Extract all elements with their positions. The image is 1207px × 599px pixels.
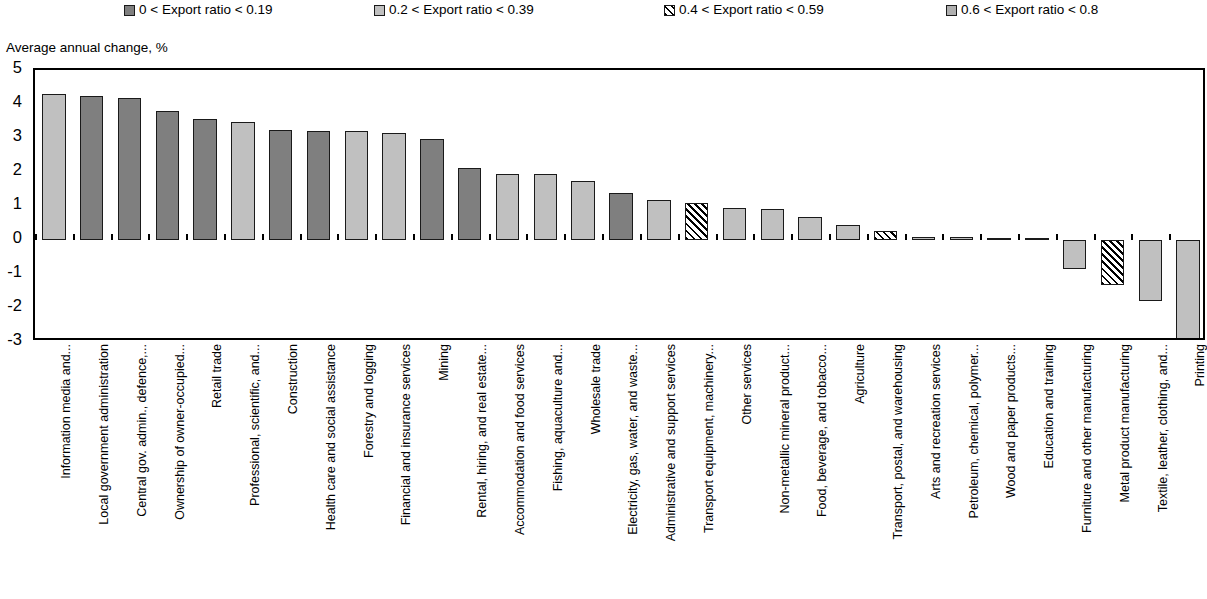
bar [80, 96, 103, 241]
x-axis-category-label: Wholesale trade [590, 344, 603, 434]
bar [193, 119, 216, 240]
legend-label: 0 < Export ratio < 0.19 [139, 3, 273, 17]
x-axis-tick-mark [300, 234, 302, 240]
y-axis-tick-label: -3 [0, 331, 22, 347]
x-axis-category-label: Wood and paper products... [1005, 344, 1018, 498]
y-axis-tick-label: 2 [0, 161, 22, 177]
x-axis-tick-mark [337, 234, 339, 240]
bar [798, 217, 821, 240]
x-axis-tick-mark [35, 234, 37, 240]
y-axis-tick-label: 3 [0, 127, 22, 143]
bars-container [35, 70, 1203, 338]
x-axis-tick-mark [753, 234, 755, 240]
bar [534, 174, 557, 240]
legend-label: 0.2 < Export ratio < 0.39 [389, 3, 534, 17]
bar [950, 237, 973, 240]
bar [307, 131, 330, 240]
y-axis-tick-label: -2 [0, 297, 22, 313]
x-axis-category-label: Furniture and other manufacturing [1081, 344, 1094, 533]
x-axis-category-label: Information media and... [60, 344, 73, 479]
y-axis-title: Average annual change, % [6, 40, 168, 55]
bar [118, 98, 141, 240]
legend-item-2[interactable]: 0.2 < Export ratio < 0.39 [374, 3, 534, 17]
chart-legend: 0 < Export ratio < 0.190.2 < Export rati… [0, 0, 1206, 26]
y-axis-tick-label: 1 [0, 195, 22, 211]
x-axis-tick-mark [526, 234, 528, 240]
x-axis-category-label: Transport, postal, and warehousing [892, 344, 905, 539]
legend-swatch-icon [374, 5, 385, 16]
legend-item-3[interactable]: 0.4 < Export ratio < 0.59 [664, 3, 824, 17]
legend-swatch-icon [946, 5, 957, 16]
bar [571, 181, 594, 240]
bar [1063, 240, 1086, 269]
plot-area [33, 68, 1205, 340]
bar [685, 203, 708, 240]
legend-swatch-icon [124, 5, 135, 16]
x-axis-category-label: Food, beverage, and tobacco... [816, 344, 829, 517]
x-axis-tick-mark [1131, 234, 1133, 240]
x-axis-category-label: Construction [287, 344, 300, 414]
x-axis-tick-mark [829, 234, 831, 240]
legend-item-1[interactable]: 0 < Export ratio < 0.19 [124, 3, 273, 17]
x-axis-category-label: Administrative and support services [665, 344, 678, 541]
bar [458, 168, 481, 240]
x-axis-category-label: Rental, hiring, and real estate... [476, 344, 489, 518]
x-axis-category-label: Non-metallic mineral product... [779, 344, 792, 514]
x-axis-category-label: Petroleum, chemical, polymer... [968, 344, 981, 518]
x-axis-category-label: Textile, leather, clothing, and... [1157, 344, 1170, 512]
x-axis-category-label: Professional, scientific, and... [249, 344, 262, 506]
x-axis-tick-mark [186, 234, 188, 240]
x-axis-category-label: Forestry and logging [363, 344, 376, 458]
x-axis-tick-mark [451, 234, 453, 240]
x-axis-tick-mark [262, 234, 264, 240]
bar [382, 133, 405, 240]
y-axis-tick-label: 0 [0, 229, 22, 245]
bar [345, 131, 368, 240]
bar [1101, 240, 1124, 285]
x-axis-category-label: Printing [1194, 344, 1207, 386]
x-axis-category-label: Metal product manufacturing [1119, 344, 1132, 502]
bar [231, 122, 254, 240]
legend-swatch-icon [664, 5, 675, 16]
bar [723, 208, 746, 240]
x-axis-category-label: Transport equipment, machinery... [703, 344, 716, 533]
x-axis-labels: Information media and...Local government… [33, 344, 1205, 594]
x-axis-tick-mark [73, 234, 75, 240]
legend-label: 0.4 < Export ratio < 0.59 [679, 3, 824, 17]
x-axis-tick-mark [1018, 234, 1020, 240]
bar [1176, 240, 1199, 340]
x-axis-tick-mark [791, 234, 793, 240]
x-axis-category-label: Retail trade [211, 344, 224, 408]
y-axis-tick-label: 4 [0, 93, 22, 109]
x-axis-category-label: Education and training [1043, 344, 1056, 468]
bar [269, 130, 292, 240]
x-axis-tick-mark [678, 234, 680, 240]
x-axis-tick-mark [640, 234, 642, 240]
bar [609, 193, 632, 240]
x-axis-category-label: Financial and insurance services [400, 344, 413, 525]
bar [156, 111, 179, 240]
x-axis-tick-mark [111, 234, 113, 240]
x-axis-category-label: Mining [438, 344, 451, 381]
x-axis-tick-mark [564, 234, 566, 240]
x-axis-tick-mark [942, 234, 944, 240]
x-axis-category-label: Electricity, gas, water, and waste... [627, 344, 640, 535]
x-axis-category-label: Agriculture [854, 344, 867, 404]
x-axis-category-label: Fishing, aquaculture and... [552, 344, 565, 491]
x-axis-tick-mark [1169, 234, 1171, 240]
x-axis-category-label: Ownership of owner-occupied... [174, 344, 187, 520]
x-axis-tick-mark [148, 234, 150, 240]
bar [912, 237, 935, 240]
bar [836, 225, 859, 240]
x-axis-category-label: Central gov. admin., defence,... [136, 344, 149, 517]
x-axis-tick-mark [224, 234, 226, 240]
x-axis-category-label: Accommodation and food services [514, 344, 527, 535]
y-axis-tick-label: -1 [0, 263, 22, 279]
x-axis-tick-mark [602, 234, 604, 240]
x-axis-tick-mark [867, 234, 869, 240]
legend-item-4[interactable]: 0.6 < Export ratio < 0.8 [946, 3, 1098, 17]
legend-label: 0.6 < Export ratio < 0.8 [961, 3, 1098, 17]
x-axis-tick-mark [1056, 234, 1058, 240]
x-axis-category-label: Arts and recreation services [930, 344, 943, 499]
bar [420, 139, 443, 240]
